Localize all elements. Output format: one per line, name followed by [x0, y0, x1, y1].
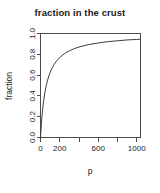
- x-tick-label-200: 200: [53, 144, 67, 153]
- plot-canvas: 1.0 0.8 0.6 0.4 0.2 0.0 fraction 0 200 6…: [0, 0, 160, 193]
- y-tick-label-0.8: 0.8: [28, 48, 37, 60]
- x-tick-label-1000: 1000: [128, 144, 146, 153]
- chart-figure: fraction in the crust 1.0 0.8 0.6 0.4 0.…: [0, 0, 160, 193]
- data-series-line: [41, 39, 141, 137]
- y-tick-label-0.2: 0.2: [28, 111, 37, 123]
- y-axis-title: fraction: [4, 72, 14, 100]
- plot-box-frame: [41, 34, 141, 138]
- y-tick-label-0.4: 0.4: [28, 90, 37, 102]
- y-tick-label-1.0: 1.0: [28, 27, 37, 39]
- x-tick-label-600: 600: [92, 144, 106, 153]
- y-tick-label-0.6: 0.6: [28, 69, 37, 81]
- y-axis-tick-labels: 1.0 0.8 0.6 0.4 0.2 0.0: [28, 27, 37, 143]
- y-tick-label-0.0: 0.0: [28, 131, 37, 143]
- x-axis-title: p: [88, 166, 93, 176]
- x-axis-tick-labels: 0 200 600 1000: [38, 144, 146, 153]
- x-tick-label-0: 0: [38, 144, 43, 153]
- x-axis-ticks: [41, 138, 137, 142]
